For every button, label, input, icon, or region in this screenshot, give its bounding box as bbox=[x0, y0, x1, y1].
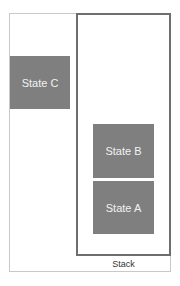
stack-label: Stack bbox=[76, 257, 171, 271]
state-a-label: State A bbox=[106, 202, 141, 214]
state-b-label: State B bbox=[105, 145, 141, 157]
state-c-label: State C bbox=[22, 77, 59, 89]
state-b-box: State B bbox=[93, 124, 154, 178]
state-c-box: State C bbox=[10, 56, 70, 109]
state-a-box: State A bbox=[93, 181, 154, 234]
